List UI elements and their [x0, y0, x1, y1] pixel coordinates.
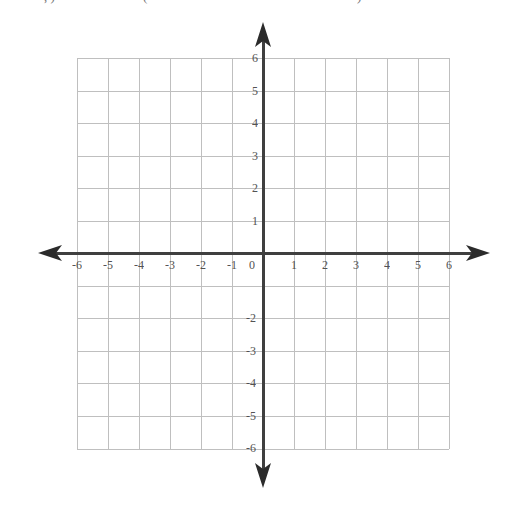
- y-tick-label-3: 3: [236, 150, 258, 162]
- x-tick-label-5: 5: [407, 259, 429, 271]
- x-tick-label--1: -1: [221, 259, 243, 271]
- y-tick-label--4: -4: [234, 377, 256, 389]
- y-tick-label--2: -2: [234, 312, 256, 324]
- y-tick-label-6: 6: [236, 52, 258, 64]
- x-tick-label--3: -3: [159, 259, 181, 271]
- x-tick-label-4: 4: [376, 259, 398, 271]
- x-tick-label-1: 1: [283, 259, 305, 271]
- axes: [44, 28, 482, 479]
- y-tick-label--3: -3: [234, 345, 256, 357]
- y-tick-label-1: 1: [236, 215, 258, 227]
- x-tick-label-6: 6: [438, 259, 460, 271]
- y-tick-label-5: 5: [236, 85, 258, 97]
- y-tick-label--6: -6: [234, 442, 256, 454]
- x-tick-label-2: 2: [314, 259, 336, 271]
- x-tick-label--5: -5: [97, 259, 119, 271]
- y-tick-label--5: -5: [234, 410, 256, 422]
- x-tick-label--4: -4: [128, 259, 150, 271]
- x-tick-label-3: 3: [345, 259, 367, 271]
- x-tick-label--6: -6: [66, 259, 88, 271]
- y-tick-label-2: 2: [236, 182, 258, 194]
- coordinate-grid-graph: -6 -5 -4 -3 -2 -1 0 1 2 3 4 5 6 6 5 4 3 …: [0, 0, 506, 515]
- x-tick-label--2: -2: [190, 259, 212, 271]
- y-tick-label-4: 4: [236, 117, 258, 129]
- origin-label: 0: [249, 259, 263, 271]
